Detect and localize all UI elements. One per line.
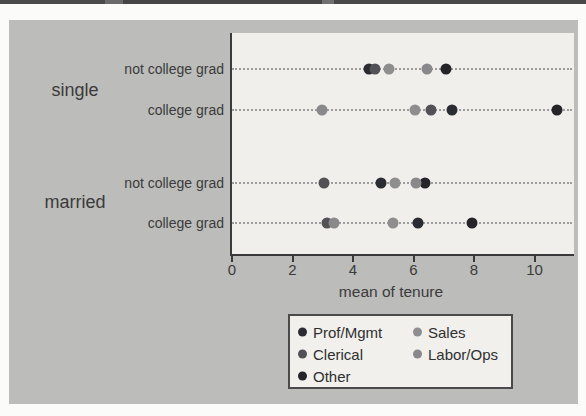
legend-label: Labor/Ops bbox=[428, 346, 498, 363]
data-dot-clerical bbox=[318, 178, 329, 189]
data-dot-clerical bbox=[426, 105, 437, 116]
legend-marker-labor-ops bbox=[413, 350, 422, 359]
x-tick-label: 0 bbox=[212, 261, 252, 278]
x-tick-label: 4 bbox=[333, 261, 373, 278]
data-dot-other bbox=[551, 105, 562, 116]
data-dot-labor-ops bbox=[421, 64, 432, 75]
legend-label: Other bbox=[313, 368, 351, 385]
x-tick-label: 8 bbox=[454, 261, 494, 278]
data-dot-prof-mgmt bbox=[447, 105, 458, 116]
data-dot-labor-ops bbox=[411, 178, 422, 189]
legend-item: Prof/Mgmt bbox=[298, 324, 403, 340]
data-dot-prof-mgmt bbox=[412, 218, 423, 229]
grid-line bbox=[232, 109, 572, 111]
data-dot-clerical bbox=[370, 64, 381, 75]
data-dot-sales bbox=[388, 218, 399, 229]
legend-box: Prof/MgmtClericalOtherSalesLabor/Ops bbox=[288, 314, 513, 389]
data-dot-sales bbox=[409, 105, 420, 116]
x-tick-label: 2 bbox=[273, 261, 313, 278]
row-label: not college grad bbox=[0, 61, 224, 77]
page-top-rule bbox=[0, 0, 586, 4]
data-dot-other bbox=[441, 64, 452, 75]
legend-item: Clerical bbox=[298, 346, 403, 362]
row-label: not college grad bbox=[0, 175, 224, 191]
data-dot-labor-ops bbox=[329, 218, 340, 229]
legend-marker-other bbox=[298, 372, 307, 381]
grid-line bbox=[232, 68, 572, 70]
legend-label: Clerical bbox=[313, 346, 363, 363]
group-label-married: married bbox=[20, 192, 130, 213]
group-label-single: single bbox=[20, 80, 130, 101]
data-dot-sales bbox=[383, 64, 394, 75]
legend-marker-sales bbox=[413, 328, 422, 337]
legend-label: Sales bbox=[428, 324, 466, 341]
plot-area bbox=[230, 33, 574, 256]
legend-marker-clerical bbox=[298, 350, 307, 359]
data-dot-sales bbox=[389, 178, 400, 189]
x-tick-label: 10 bbox=[515, 261, 555, 278]
legend-label: Prof/Mgmt bbox=[313, 324, 382, 341]
data-dot-labor-ops bbox=[317, 105, 328, 116]
row-label: college grad bbox=[0, 215, 224, 231]
legend-item: Other bbox=[298, 368, 403, 384]
grid-line bbox=[232, 182, 572, 184]
legend-marker-prof-mgmt bbox=[298, 328, 307, 337]
x-tick-label: 6 bbox=[394, 261, 434, 278]
data-dot-other bbox=[466, 218, 477, 229]
legend-item: Labor/Ops bbox=[413, 346, 518, 362]
grid-line bbox=[232, 222, 572, 224]
legend-item: Sales bbox=[413, 324, 518, 340]
row-label: college grad bbox=[0, 102, 224, 118]
x-axis-title: mean of tenure bbox=[231, 283, 551, 301]
data-dot-prof-mgmt bbox=[376, 178, 387, 189]
